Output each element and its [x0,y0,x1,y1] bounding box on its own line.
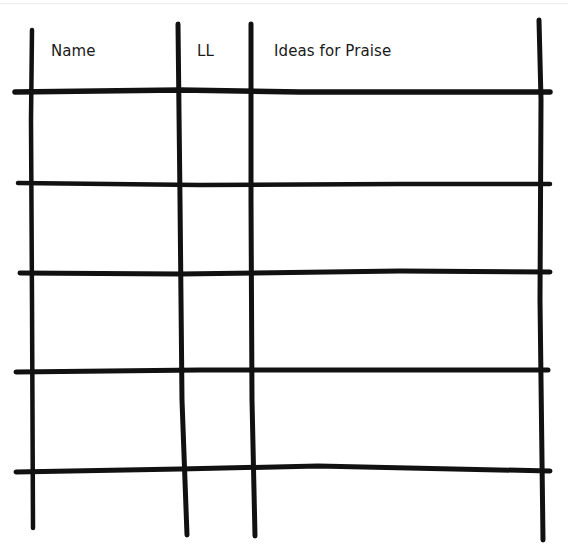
row-2-ideas-cell [256,188,536,270]
row-1-ideas-cell [256,96,536,182]
row-2-ll-cell [184,188,248,270]
column-header-ideas-for-praise: Ideas for Praise [274,42,391,60]
row-3-name-cell [36,277,178,367]
row-1-ll-cell [184,96,248,182]
row-4-ideas-cell [256,374,536,466]
vertical-line-1 [31,30,33,528]
column-header-name: Name [51,42,96,60]
hand-drawn-table-grid [0,0,568,549]
column-header-ll: LL [197,42,214,60]
row-4-name-cell [36,374,178,466]
row-3-ll-cell [184,277,248,367]
row-1-name-cell [36,96,178,182]
horizontal-line-4 [16,370,548,372]
row-4-ll-cell [184,374,248,466]
row-3-ideas-cell [256,277,536,367]
row-2-name-cell [36,188,178,270]
vertical-line-3 [251,24,255,536]
vertical-line-4 [539,20,543,540]
horizontal-line-3 [20,271,550,274]
horizontal-line-2 [18,183,550,185]
horizontal-line-5 [16,466,550,472]
horizontal-line-1 [15,90,550,92]
